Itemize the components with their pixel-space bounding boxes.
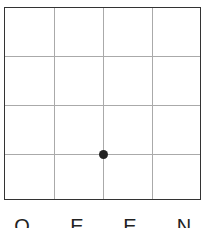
column-label: O	[14, 216, 30, 228]
game-board[interactable]	[4, 7, 201, 200]
column-label: N	[177, 216, 191, 228]
grid-line-vertical	[54, 8, 55, 199]
black-stone[interactable]	[99, 150, 108, 159]
grid-line-vertical	[103, 8, 104, 199]
column-label: E	[123, 216, 136, 228]
grid-line-vertical	[152, 8, 153, 199]
column-label: E	[70, 216, 83, 228]
grid-line-horizontal	[5, 105, 200, 106]
column-labels: O E E N	[0, 216, 204, 228]
grid-line-horizontal	[5, 56, 200, 57]
